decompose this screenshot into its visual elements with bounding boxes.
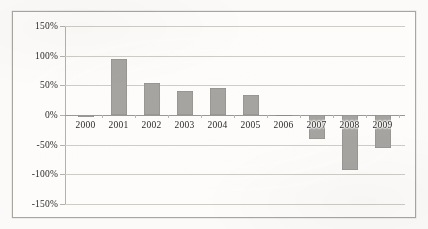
x-axis-label-2007: 2007 — [307, 120, 327, 130]
bar-2005 — [243, 95, 259, 115]
bar-2000 — [78, 115, 94, 117]
x-axis-label-2009: 2009 — [373, 120, 393, 130]
bar-2006 — [276, 115, 292, 116]
y-tick-100 — [60, 56, 65, 57]
screenshot-page: 150%100%50%0%-50%-100%-150% 200020012002… — [0, 0, 428, 229]
plot-area: 150%100%50%0%-50%-100%-150% 200020012002… — [65, 26, 405, 204]
x-tick — [333, 115, 334, 118]
y-axis-label: 100% — [35, 51, 58, 61]
y-axis-label: 0% — [45, 110, 58, 120]
x-tick — [267, 115, 268, 118]
gridline-100 — [65, 56, 405, 57]
x-tick — [102, 115, 103, 118]
chart-frame: 150%100%50%0%-50%-100%-150% 200020012002… — [12, 11, 416, 218]
x-axis-label-2003: 2003 — [175, 120, 195, 130]
x-axis-label-2008: 2008 — [340, 120, 360, 130]
y-tick-150 — [60, 26, 65, 27]
x-tick — [399, 115, 400, 118]
x-tick — [135, 115, 136, 118]
x-tick — [300, 115, 301, 118]
gridline--100 — [65, 174, 405, 175]
y-axis-label: -50% — [37, 140, 58, 150]
x-axis-label-2000: 2000 — [76, 120, 96, 130]
bar-2003 — [177, 91, 193, 115]
y-tick-50 — [60, 85, 65, 86]
x-axis-label-2001: 2001 — [109, 120, 129, 130]
bar-2001 — [111, 59, 127, 115]
gridline--150 — [65, 204, 405, 205]
x-axis-label-2005: 2005 — [241, 120, 261, 130]
x-tick — [201, 115, 202, 118]
x-axis-label-2006: 2006 — [274, 120, 294, 130]
y-tick--50 — [60, 145, 65, 146]
y-tick--100 — [60, 174, 65, 175]
y-axis-label: 150% — [35, 21, 58, 31]
y-tick--150 — [60, 204, 65, 205]
y-axis-label: -100% — [32, 169, 58, 179]
bar-2004 — [210, 88, 226, 115]
x-axis-label-2002: 2002 — [142, 120, 162, 130]
bar-2002 — [144, 83, 160, 115]
x-tick — [168, 115, 169, 118]
x-tick — [366, 115, 367, 118]
y-tick-0 — [60, 115, 65, 116]
x-tick — [234, 115, 235, 118]
x-axis-label-2004: 2004 — [208, 120, 228, 130]
y-axis-label: 50% — [40, 80, 58, 90]
y-axis-label: -150% — [32, 199, 58, 209]
gridline-150 — [65, 26, 405, 27]
